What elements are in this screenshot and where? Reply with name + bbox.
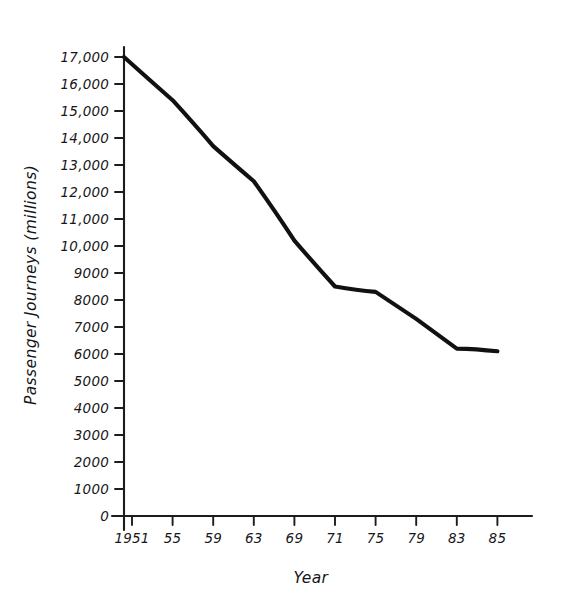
x-tick-marks — [132, 516, 497, 525]
y-tick-label: 13,000 — [61, 157, 109, 173]
x-tick-label: 79 — [407, 530, 425, 546]
x-tick-label: 69 — [286, 530, 304, 546]
x-tick-label: 1951 — [114, 530, 149, 546]
x-axis-group: 1951555963697175798385 — [112, 516, 532, 546]
y-tick-label: 15,000 — [61, 103, 109, 119]
x-tick-label: 55 — [164, 530, 182, 546]
y-tick-label: 14,000 — [61, 130, 109, 146]
x-tick-labels: 1951555963697175798385 — [114, 530, 506, 546]
y-tick-label: 11,000 — [61, 211, 109, 227]
y-tick-label: 6000 — [74, 346, 109, 362]
chart-canvas: 010002000300040005000600070008000900010,… — [0, 0, 563, 601]
y-tick-label: 17,000 — [61, 49, 109, 65]
y-tick-labels: 010002000300040005000600070008000900010,… — [61, 49, 109, 524]
y-tick-label: 1000 — [74, 481, 109, 497]
y-tick-label: 2000 — [74, 454, 109, 470]
y-axis-group: 010002000300040005000600070008000900010,… — [61, 47, 124, 530]
y-tick-label: 8000 — [74, 292, 109, 308]
x-tick-label: 75 — [367, 530, 385, 546]
y-tick-label: 12,000 — [61, 184, 109, 200]
hand-drawn-line-chart: 010002000300040005000600070008000900010,… — [0, 0, 563, 601]
y-tick-label: 0 — [100, 508, 109, 524]
x-tick-label: 85 — [489, 530, 507, 546]
y-tick-label: 7000 — [74, 319, 109, 335]
y-tick-label: 10,000 — [61, 238, 109, 254]
x-tick-label: 71 — [326, 530, 344, 546]
x-tick-label: 63 — [245, 530, 263, 546]
y-tick-label: 3000 — [74, 427, 109, 443]
x-axis-title: Year — [294, 569, 330, 587]
data-series-line — [124, 57, 497, 351]
y-tick-label: 4000 — [74, 400, 109, 416]
y-tick-marks — [115, 57, 124, 516]
y-tick-label: 9000 — [74, 265, 109, 281]
x-tick-label: 59 — [204, 530, 222, 546]
y-axis-title: Passenger Journeys (millions) — [22, 165, 40, 405]
x-tick-label: 83 — [448, 530, 466, 546]
y-tick-label: 16,000 — [61, 76, 109, 92]
y-tick-label: 5000 — [74, 373, 109, 389]
